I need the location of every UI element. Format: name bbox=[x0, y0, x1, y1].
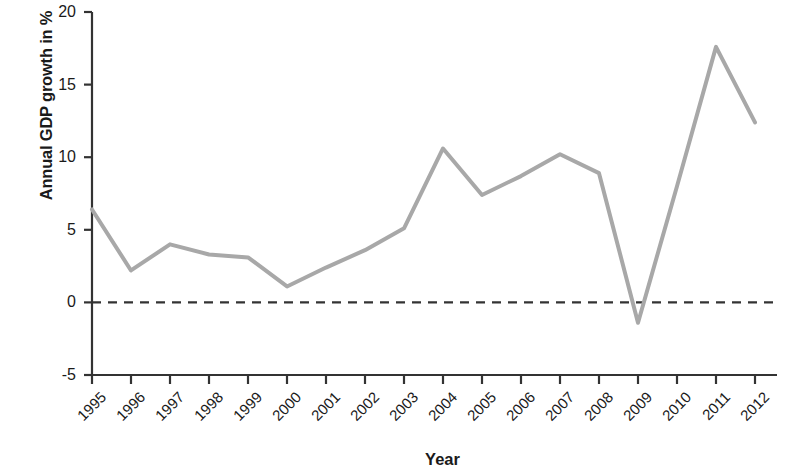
y-tick-label: 15 bbox=[34, 77, 76, 93]
gdp-growth-line bbox=[92, 47, 755, 323]
y-tick-label: 5 bbox=[34, 222, 76, 238]
y-tick-label: -5 bbox=[34, 367, 76, 383]
y-tick-label: 20 bbox=[34, 4, 76, 20]
gdp-growth-line-chart: Annual GDP growth in % Year -505101520 1… bbox=[0, 0, 789, 474]
y-tick-label: 10 bbox=[34, 149, 76, 165]
y-tick-label: 0 bbox=[34, 294, 76, 310]
